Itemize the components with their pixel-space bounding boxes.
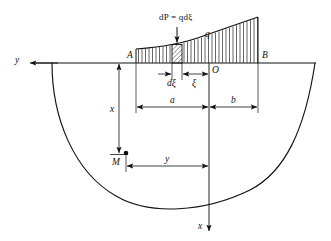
dim-a-label: a	[170, 96, 175, 106]
point-a-label: A	[127, 51, 133, 61]
x-axis-label: x	[198, 222, 202, 232]
load-distribution-figure: dP = qdξ q A B O dξ ξ a b x M y y x	[0, 0, 331, 241]
origin-label: O	[212, 66, 219, 76]
y-axis-label: y	[15, 56, 19, 66]
point-b-label: B	[262, 51, 268, 61]
dxi-label: dξ	[167, 79, 176, 89]
dim-y-label: y	[165, 155, 169, 165]
dP-equation-label: dP = qdξ	[159, 13, 192, 22]
dxi-xi-dimension-group	[158, 63, 208, 80]
xi-label: ξ	[192, 79, 196, 89]
dim-x-label: x	[110, 105, 114, 115]
a-b-dimension-group	[136, 63, 258, 113]
figure-canvas	[0, 0, 331, 241]
dim-b-label: b	[231, 96, 236, 106]
element-strip-dP	[172, 45, 182, 64]
cross-section-boundary	[52, 63, 315, 209]
load-intensity-label: q	[205, 30, 210, 40]
point-m-label: M	[112, 158, 120, 168]
distributed-load-diagram	[136, 17, 258, 63]
